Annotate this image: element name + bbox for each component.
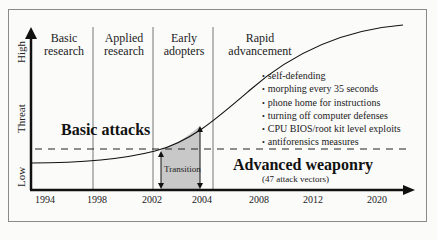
feature-item: self-defending: [262, 70, 401, 83]
x-tick: 2004: [192, 194, 212, 205]
x-tick: 1994: [35, 194, 55, 205]
feature-item: morphing every 35 seconds: [262, 83, 401, 96]
x-tick: 1998: [87, 194, 107, 205]
y-label-high: High: [15, 41, 27, 63]
y-label-low: Low: [15, 165, 27, 187]
x-tick: 2012: [303, 194, 323, 205]
x-tick: 2002: [142, 194, 162, 205]
x-axis-arrow-icon: [403, 185, 415, 195]
advanced-weaponry-label: Advanced weaponry: [233, 156, 373, 174]
phase-label-basic-research: Basicresearch: [36, 32, 92, 58]
feature-item: antiforensics measures: [262, 136, 401, 149]
basic-attacks-label: Basic attacks: [61, 121, 150, 139]
feature-item: turning off computer defenses: [262, 110, 401, 123]
transition-label: Transition: [164, 164, 201, 174]
phase-label-rapid-advancement: Rapidadvancement: [222, 32, 298, 58]
phase-label-early-adopters: Earlyadopters: [155, 32, 213, 58]
transition-region: [161, 126, 200, 190]
x-tick: 2020: [367, 194, 387, 205]
feature-list: self-defending morphing every 35 seconds…: [262, 70, 401, 150]
feature-item: phone home for instructions: [262, 97, 401, 110]
attack-vectors-sublabel: (47 attack vectors): [262, 174, 329, 184]
phase-label-applied-research: Appliedresearch: [95, 32, 153, 58]
y-axis-title: Threat: [15, 101, 27, 133]
feature-item: CPU BIOS/root kit level exploits: [262, 123, 401, 136]
x-tick: 2008: [249, 194, 269, 205]
